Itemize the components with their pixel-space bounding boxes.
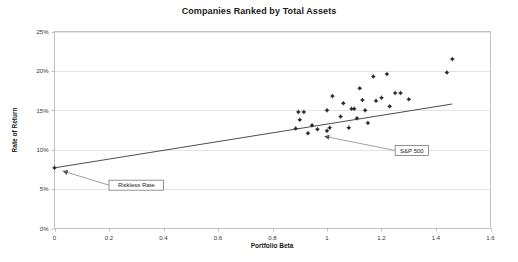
data-point [374, 99, 378, 103]
security-market-line [55, 104, 453, 168]
data-point [298, 118, 302, 122]
plot-area-border [55, 32, 491, 229]
data-point [306, 131, 310, 135]
data-point [450, 57, 454, 61]
data-point [385, 72, 389, 76]
leader-arrowhead [324, 135, 329, 140]
data-point [445, 70, 449, 74]
y-tick-label: 25% [36, 29, 49, 35]
annotation-label: Riskless Rate [118, 182, 155, 188]
leader-line [324, 136, 395, 150]
leader-line [63, 171, 109, 185]
y-tick-label: 0% [40, 226, 49, 232]
data-point [328, 125, 332, 129]
data-point [393, 91, 397, 95]
data-point [341, 101, 345, 105]
leader-arrowhead [63, 170, 69, 175]
chart-container: Companies Ranked by Total Assets 0%5%10%… [0, 0, 518, 262]
data-point [325, 108, 329, 112]
x-tick-label: 0.4 [159, 235, 168, 241]
annotation-s-p-500: S&P 500 [324, 135, 428, 156]
data-point [52, 166, 56, 170]
x-tick-label: 0.6 [214, 235, 223, 241]
data-point [293, 126, 297, 130]
data-point [315, 127, 319, 131]
data-point [347, 125, 351, 129]
x-tick-label: 0.8 [268, 235, 277, 241]
data-point [360, 98, 364, 102]
data-point [330, 94, 334, 98]
y-axis-tick-labels: 0%5%10%15%20%25% [36, 29, 49, 232]
y-axis-tick-marks [52, 33, 55, 230]
data-point [379, 95, 383, 99]
x-tick-label: 0.2 [105, 235, 114, 241]
data-point [407, 97, 411, 101]
data-point [371, 74, 375, 78]
x-tick-label: 1.4 [432, 235, 441, 241]
y-tick-label: 5% [40, 186, 49, 192]
x-tick-label: 1.6 [486, 235, 495, 241]
x-tick-label: 1.2 [377, 235, 386, 241]
scatter-plot: 0%5%10%15%20%25% 00.20.40.60.811.21.41.6… [0, 0, 518, 262]
annotation-riskless-rate: Riskless Rate [63, 170, 164, 190]
trend-line [55, 104, 453, 168]
gridlines-group [55, 33, 491, 190]
y-tick-label: 20% [36, 68, 49, 74]
x-axis-tick-labels: 00.20.40.60.811.21.41.6 [53, 235, 496, 241]
y-tick-label: 10% [36, 147, 49, 153]
data-point [398, 91, 402, 95]
data-point [338, 114, 342, 118]
x-tick-label: 1 [325, 235, 329, 241]
annotations-group: Riskless RateS&P 500 [63, 135, 429, 190]
x-axis-tick-marks [56, 229, 492, 232]
x-tick-label: 0 [53, 235, 57, 241]
data-point [363, 108, 367, 112]
x-axis-title: Portfolio Beta [251, 242, 294, 249]
y-tick-label: 15% [36, 108, 49, 114]
data-point [366, 121, 370, 125]
data-point [325, 129, 329, 133]
data-point [358, 86, 362, 90]
data-point [387, 104, 391, 108]
annotation-label: S&P 500 [400, 148, 424, 154]
y-axis-title: Rate of Return [11, 108, 18, 153]
